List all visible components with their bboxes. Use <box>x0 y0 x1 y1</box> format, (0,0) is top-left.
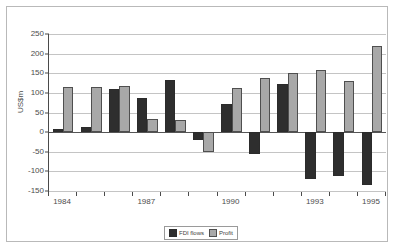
x-tick-mark <box>188 192 189 196</box>
bar-group <box>53 34 74 191</box>
bar-group <box>362 34 383 191</box>
bar <box>81 127 91 132</box>
bar <box>109 89 119 132</box>
bar-group <box>333 34 354 191</box>
x-tick-label: 1984 <box>53 198 71 206</box>
plot-area: 250200150100500-50-100-150 <box>48 34 386 192</box>
y-tick-label: 200 <box>31 50 44 58</box>
legend-label: FDI flows <box>179 230 204 236</box>
bar-group <box>137 34 158 191</box>
x-tick-mark <box>160 192 161 196</box>
x-tick-label: 1993 <box>306 198 324 206</box>
y-tick-label: 50 <box>35 109 44 117</box>
bar <box>137 98 147 133</box>
x-tick-mark <box>329 192 330 196</box>
bar <box>333 132 343 176</box>
bar <box>203 132 213 152</box>
bar <box>165 80 175 132</box>
bar-group <box>249 34 270 191</box>
bar <box>91 87 101 132</box>
y-tick-label: 250 <box>31 30 44 38</box>
bar <box>362 132 372 185</box>
y-tick-label: 150 <box>31 69 44 77</box>
bar-group <box>165 34 186 191</box>
y-tick-label: -100 <box>28 167 44 175</box>
legend-swatch <box>209 229 217 237</box>
y-tick-label: -50 <box>32 148 44 156</box>
x-axis: 19841987199019931995 <box>48 192 386 214</box>
chart-legend: FDI flowsProfit <box>164 226 238 240</box>
bar <box>221 104 231 132</box>
x-tick-mark <box>301 192 302 196</box>
x-tick-mark <box>273 192 274 196</box>
bar <box>372 46 382 132</box>
bar <box>147 119 157 132</box>
legend-entry: Profit <box>209 229 233 237</box>
chart-figure-frame: US$m 250200150100500-50-100-150 19841987… <box>6 6 388 242</box>
bar-group <box>277 34 298 191</box>
x-tick-mark <box>245 192 246 196</box>
x-tick-label: 1995 <box>362 198 380 206</box>
bar-group <box>221 34 242 191</box>
legend-label: Profit <box>219 230 233 236</box>
bar <box>119 86 129 132</box>
y-axis-title: US$m <box>17 91 25 113</box>
x-tick-label: 1987 <box>137 198 155 206</box>
bar <box>53 129 63 132</box>
x-tick-mark <box>385 192 386 196</box>
x-tick-mark <box>357 192 358 196</box>
legend-entry: FDI flows <box>169 229 204 237</box>
bar <box>232 88 242 132</box>
y-tick-label: 0 <box>40 128 44 136</box>
bars-layer <box>49 34 386 191</box>
bar <box>288 73 298 132</box>
x-tick-mark <box>217 192 218 196</box>
y-tick-label: 100 <box>31 89 44 97</box>
bar <box>249 132 259 154</box>
bar-group <box>305 34 326 191</box>
bar <box>316 70 326 132</box>
bar <box>344 81 354 132</box>
bar <box>305 132 315 179</box>
legend-swatch <box>169 229 177 237</box>
x-tick-mark <box>104 192 105 196</box>
x-tick-mark <box>132 192 133 196</box>
x-tick-label: 1990 <box>222 198 240 206</box>
bar <box>260 78 270 132</box>
bar <box>175 120 185 133</box>
x-tick-mark <box>76 192 77 196</box>
bar <box>193 132 203 140</box>
bar-group <box>81 34 102 191</box>
bar-group <box>109 34 130 191</box>
x-tick-mark <box>48 192 49 196</box>
bar-group <box>193 34 214 191</box>
y-tick-label: -150 <box>28 187 44 195</box>
bar <box>63 87 73 132</box>
bar <box>277 84 287 132</box>
